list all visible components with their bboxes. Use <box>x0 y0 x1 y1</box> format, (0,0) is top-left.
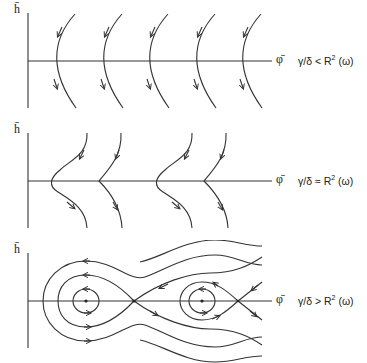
y-axis-label: h̄ <box>14 122 20 137</box>
y-axis-label: h̄ <box>14 2 20 17</box>
panel-critical: h̄ φ̄ γ/δ ≈ R2 (ω) <box>0 120 367 240</box>
saddle-2 <box>237 300 239 302</box>
condition-relation: < <box>315 55 321 67</box>
center-1 <box>84 299 87 302</box>
condition-label: γ/δ > R2 (ω) <box>298 294 354 307</box>
panel-subcritical: h̄ φ̄ γ/δ < R2 (ω) <box>0 0 367 120</box>
x-axis-label: φ̄ <box>276 172 283 187</box>
x-axis-label: φ̄ <box>276 52 283 67</box>
condition-lhs: γ/δ <box>298 175 312 187</box>
condition-rhs-base: R <box>324 55 332 67</box>
condition-rhs-arg: (ω) <box>338 175 353 187</box>
condition-rhs-arg: (ω) <box>338 55 353 67</box>
condition-lhs: γ/δ <box>298 295 312 307</box>
condition-rhs-base: R <box>324 295 332 307</box>
saddle-1 <box>132 299 135 302</box>
flow-arrows <box>67 150 224 209</box>
x-axis-label: φ̄ <box>276 292 283 307</box>
y-axis-label: h̄ <box>14 242 20 257</box>
condition-rhs-exp: 2 <box>332 294 336 301</box>
condition-label: γ/δ ≈ R2 (ω) <box>298 174 353 187</box>
center-2 <box>200 299 203 302</box>
panel-supercritical: h̄ φ̄ γ/δ > R2 (ω) <box>0 240 367 360</box>
condition-relation: > <box>315 295 321 307</box>
condition-rhs-exp: 2 <box>331 174 335 181</box>
condition-label: γ/δ < R2 (ω) <box>298 54 354 67</box>
flow-arrows <box>54 27 248 88</box>
condition-rhs-arg: (ω) <box>338 295 353 307</box>
condition-rhs-exp: 2 <box>332 54 336 61</box>
condition-lhs: γ/δ <box>298 55 312 67</box>
condition-relation: ≈ <box>315 175 321 187</box>
